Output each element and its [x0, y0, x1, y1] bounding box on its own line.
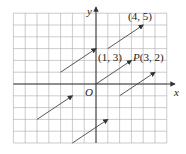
x-axis-label: x [174, 87, 179, 98]
y-axis-label: y [87, 6, 92, 17]
point-label-4-5: (4, 5) [128, 11, 152, 22]
origin-label: O [85, 87, 93, 98]
point-label-p: P(3, 2) [133, 52, 164, 63]
point-label-1-3: (1, 3) [98, 52, 122, 63]
coordinate-grid [0, 0, 186, 154]
